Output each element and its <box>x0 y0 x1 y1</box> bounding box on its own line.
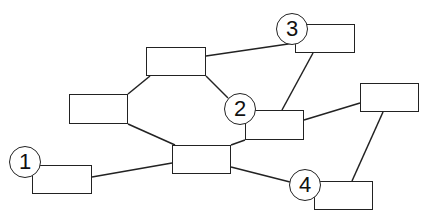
number-badge-2: 2 <box>224 93 256 125</box>
edge-line <box>231 167 290 182</box>
node-box-n1 <box>32 165 92 194</box>
number-badge-1: 1 <box>9 146 41 178</box>
node-box-n4 <box>314 181 373 210</box>
node-box-right <box>360 83 419 112</box>
number-badge-3: 3 <box>276 13 308 45</box>
edge-line <box>128 76 150 94</box>
edge-line <box>128 124 175 145</box>
edge-line <box>206 76 228 98</box>
edge-line <box>304 103 360 120</box>
edge-line <box>352 112 383 181</box>
number-badge-4: 4 <box>289 169 321 201</box>
edge-line <box>282 53 313 110</box>
edge-line <box>92 163 172 177</box>
node-box-center <box>172 145 231 174</box>
edge-line <box>231 140 245 145</box>
edge-line <box>206 43 295 56</box>
network-diagram: 1234 <box>0 0 428 219</box>
node-box-left <box>69 94 128 124</box>
node-box-top <box>146 47 206 76</box>
